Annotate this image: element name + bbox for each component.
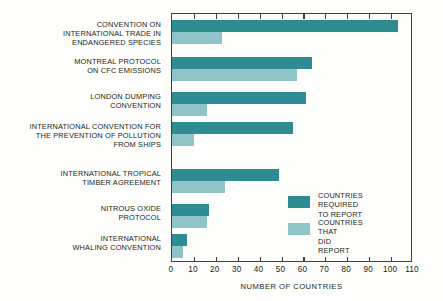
axis-tick-label: 80 (342, 265, 352, 274)
bar (172, 169, 279, 181)
bar (172, 57, 312, 69)
legend-swatch-did-report-icon (288, 223, 310, 235)
axis-tick (303, 14, 304, 19)
axis-tick (369, 14, 370, 19)
axis-tick-label: 30 (232, 265, 242, 274)
axis-tick-label: 10 (188, 265, 198, 274)
axis-tick-label: 20 (210, 265, 220, 274)
x-axis-line (171, 261, 412, 262)
bar (172, 104, 207, 116)
axis-tick (216, 14, 217, 19)
axis-tick-label: 40 (254, 265, 264, 274)
bar (172, 246, 183, 258)
bar-chart: CONVENTION ON INTERNATIONAL TRADE IN END… (0, 0, 443, 301)
axis-tick-label: 90 (363, 265, 373, 274)
axis-tick (194, 14, 195, 19)
category-label: NITROUS OXIDE PROTOCOL (101, 204, 161, 222)
category-label: LONDON DUMPING CONVENTION (90, 92, 161, 110)
axis-tick-label: 60 (298, 265, 308, 274)
legend-swatch-required-icon (288, 196, 310, 208)
category-label: MONTREAL PROTOCOL ON CFC EMISSIONS (74, 57, 161, 75)
axis-tick (238, 14, 239, 19)
legend-label: COUNTRIES THAT DID REPORT (318, 218, 363, 255)
axis-tick-label: 50 (276, 265, 286, 274)
bar (172, 234, 187, 246)
bar (172, 122, 293, 134)
category-label: INTERNATIONAL TROPICAL TIMBER AGREEMENT (61, 169, 162, 187)
axis-tick (260, 14, 261, 19)
x-axis-title: NUMBER OF COUNTRIES (171, 282, 412, 291)
bar (172, 204, 209, 216)
axis-tick-label: 70 (320, 265, 330, 274)
category-label-column: CONVENTION ON INTERNATIONAL TRADE IN END… (0, 0, 166, 262)
axis-tick-label: 100 (383, 265, 397, 274)
bar (172, 69, 297, 81)
bar (172, 32, 222, 44)
bar (172, 20, 398, 32)
category-label: INTERNATIONAL WHALING CONVENTION (72, 234, 161, 252)
axis-tick-label: 0 (169, 265, 174, 274)
bar (172, 181, 225, 193)
bar (172, 216, 207, 228)
axis-tick (347, 14, 348, 19)
bar (172, 134, 194, 146)
axis-tick (282, 14, 283, 19)
axis-tick (391, 14, 392, 19)
axis-tick (325, 14, 326, 19)
category-label: INTERNATIONAL CONVENTION FOR THE PREVENT… (30, 122, 162, 149)
category-label: CONVENTION ON INTERNATIONAL TRADE IN END… (63, 20, 161, 47)
bar (172, 92, 306, 104)
axis-tick-label: 110 (405, 265, 419, 274)
legend-label: COUNTRIES REQUIRED TO REPORT (318, 191, 363, 219)
